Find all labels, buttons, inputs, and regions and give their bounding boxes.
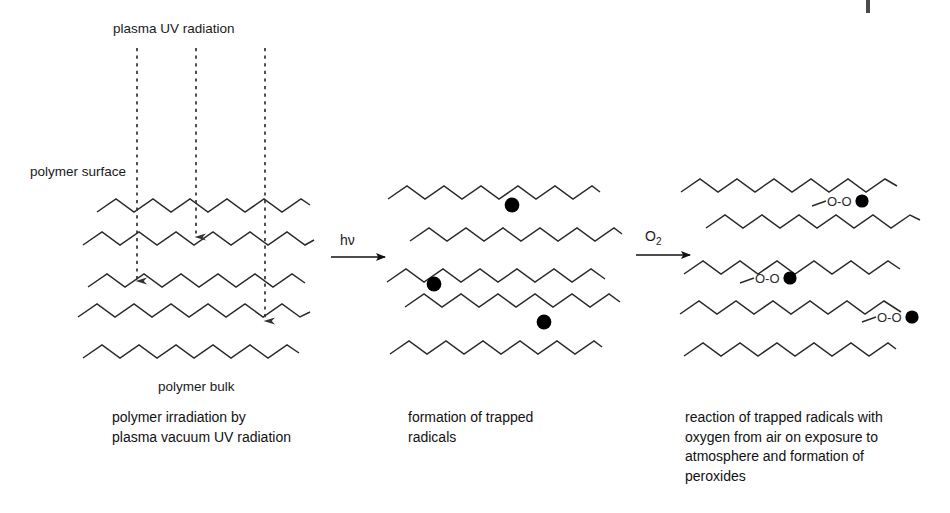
peroxide-radical-dot: [905, 310, 918, 323]
arrow-label-hv: hν: [340, 232, 355, 249]
radical-dot: [427, 277, 442, 292]
polymer-chain: [390, 341, 602, 354]
peroxide-group-bonds: [740, 201, 876, 322]
polymer-chain: [405, 294, 620, 307]
caption-middle: formation of trapped radicals: [408, 408, 533, 447]
peroxide-label: O-O: [755, 271, 780, 286]
polymer-chain: [410, 228, 622, 241]
plasma-uv-radiation-label: plasma UV radiation: [113, 20, 235, 37]
polymer-chain: [88, 274, 305, 287]
polymer-irradiation-panel: [78, 48, 314, 358]
peroxide-formation-panel: O-O O-O O-O: [680, 179, 920, 356]
radical-dot: [505, 198, 520, 213]
caption-right: reaction of trapped radicals with oxygen…: [685, 408, 883, 486]
polymer-chain-group-right: [680, 179, 920, 356]
caption-left: polymer irradiation by plasma vacuum UV …: [112, 408, 291, 447]
polymer-chain: [83, 232, 314, 245]
trapped-radicals-panel: [387, 186, 622, 354]
polymer-chain: [684, 343, 896, 356]
polymer-chain: [83, 345, 299, 358]
peroxide-radical-dot: [855, 194, 868, 207]
arrow-label-o2-text: O: [645, 228, 656, 244]
figure-canvas: O-O O-O O-O plasma UV radiation polymer …: [0, 0, 950, 513]
arrow-label-o2-subscript: 2: [656, 236, 662, 247]
polymer-chain: [78, 304, 310, 317]
peroxide-bond: [740, 278, 754, 283]
radical-dot-group: [427, 198, 552, 330]
arrow-label-hv-text: hν: [340, 232, 355, 248]
scan-artifact: [866, 0, 870, 13]
polymer-chain: [706, 215, 920, 228]
peroxide-label-group: O-O O-O O-O: [755, 194, 902, 325]
polymer-chain: [680, 301, 901, 314]
peroxide-label: O-O: [827, 194, 852, 209]
polymer-chain: [388, 186, 600, 199]
polymer-chain: [387, 269, 605, 282]
peroxide-radical-dot: [783, 271, 796, 284]
polymer-surface-label: polymer surface: [30, 163, 126, 180]
polymer-chain: [681, 179, 897, 192]
peroxide-label: O-O: [877, 310, 902, 325]
peroxide-bond: [812, 201, 826, 206]
polymer-bulk-label: polymer bulk: [158, 378, 235, 395]
polymer-chain: [97, 199, 310, 212]
radical-dot: [537, 315, 552, 330]
arrow-label-o2: O2: [645, 228, 661, 250]
polymer-chain-group-middle: [387, 186, 622, 354]
peroxide-bond: [862, 317, 876, 322]
